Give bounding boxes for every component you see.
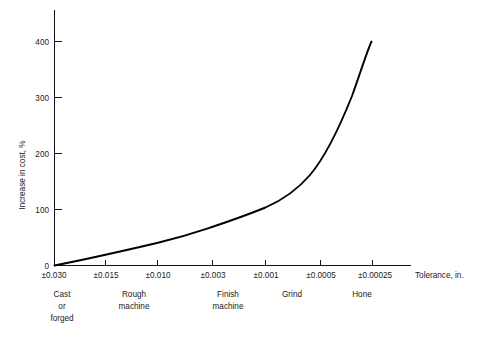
- y-axis-title: Increase in cost, %: [18, 140, 27, 209]
- x-tick-label-4: ±0.001: [254, 271, 279, 280]
- chart-figure: 400 300 200 100 0 Increase in cost, % ±0…: [0, 0, 479, 340]
- process-label-rough-line1: Rough: [122, 290, 147, 299]
- process-label-cast-line1: Cast: [54, 290, 72, 299]
- y-tick-label-100: 100: [35, 206, 49, 215]
- x-tick-label-3: ±0.003: [201, 271, 226, 280]
- cost-vs-tolerance-chart: 400 300 200 100 0 Increase in cost, % ±0…: [0, 0, 479, 340]
- x-tick-label-2: ±0.010: [146, 271, 171, 280]
- y-tick-label-0: 0: [44, 262, 49, 271]
- x-tick-label-1: ±0.015: [94, 271, 119, 280]
- process-label-finish-line2: machine: [213, 302, 244, 311]
- y-tick-label-300: 300: [35, 94, 49, 103]
- process-label-cast-line3: forged: [50, 314, 74, 323]
- x-tick-label-0: ±0.030: [42, 271, 67, 280]
- process-label-cast-line2: or: [58, 302, 66, 311]
- chart-page: 400 300 200 100 0 Increase in cost, % ±0…: [0, 0, 479, 340]
- process-label-rough-line2: machine: [119, 302, 150, 311]
- x-axis-title: Tolerance, in.: [415, 271, 464, 280]
- y-tick-label-200: 200: [35, 150, 49, 159]
- process-label-finish-line1: Finish: [217, 290, 239, 299]
- process-label-hone: Hone: [352, 290, 372, 299]
- y-tick-label-400: 400: [35, 38, 49, 47]
- process-label-grind: Grind: [282, 290, 302, 299]
- x-tick-label-6: ±0.00025: [358, 271, 393, 280]
- x-tick-label-5: ±0.0005: [306, 271, 336, 280]
- cost-curve: [55, 42, 372, 266]
